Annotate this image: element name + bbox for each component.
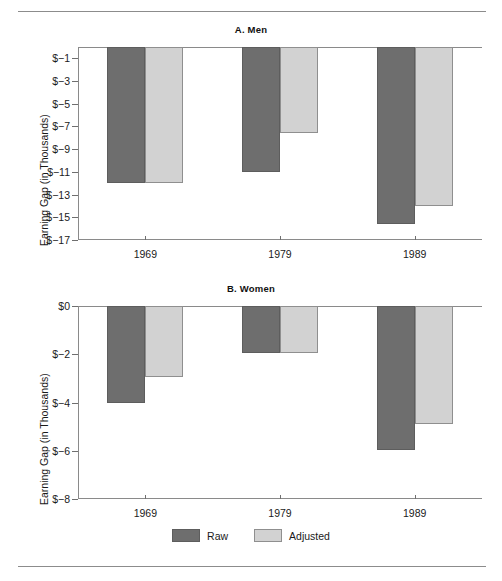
x-axis-tick-mark	[280, 495, 281, 499]
x-axis-tick-mark	[415, 495, 416, 499]
y-axis-tick-mark	[72, 354, 78, 355]
bar-women-1989-raw	[377, 306, 415, 450]
bar-women-1969-raw	[107, 306, 145, 403]
panel-men-plot-area: $−1$−3$−5$−7$−9$−11$−13$−15$−17196919791…	[78, 47, 482, 240]
x-axis-tick-mark	[280, 236, 281, 240]
bar-women-1979-adjusted	[280, 306, 318, 353]
y-axis-tick-label: $−17	[46, 234, 70, 246]
y-axis-tick-label: $−9	[52, 143, 70, 155]
bar-women-1979-raw	[242, 306, 280, 353]
legend-swatch-raw	[172, 529, 200, 542]
x-axis-tick-mark	[145, 495, 146, 499]
y-axis-tick-mark	[72, 172, 78, 173]
x-axis-tick-label: 1979	[268, 248, 291, 260]
legend-item-raw[interactable]: Raw	[172, 529, 228, 542]
y-axis-tick-label: $−15	[46, 211, 70, 223]
y-axis-tick-mark	[72, 306, 78, 307]
y-axis-tick-mark	[72, 81, 78, 82]
bar-men-1969-adjusted	[145, 47, 183, 183]
panel-men: A. Men Earning Gap (in Thousands) $−1$−3…	[0, 24, 502, 274]
y-axis-tick-mark	[72, 195, 78, 196]
x-axis-tick-label: 1989	[403, 507, 426, 519]
panel-women: B. Women Earning Gap (in Thousands) $0$−…	[0, 283, 502, 533]
x-axis-tick-label: 1969	[134, 248, 157, 260]
legend-item-adjusted[interactable]: Adjusted	[254, 529, 330, 542]
y-axis-tick-mark	[72, 403, 78, 404]
chart-legend: RawAdjusted	[0, 529, 502, 542]
y-axis-tick-label: $−4	[52, 397, 70, 409]
bar-women-1989-adjusted	[415, 306, 453, 424]
panel-men-y-axis	[78, 47, 79, 240]
y-axis-tick-label: $−8	[52, 493, 70, 505]
figure-canvas: A. Men Earning Gap (in Thousands) $−1$−3…	[0, 0, 502, 581]
panel-women-plot-area: $0$−2$−4$−6$−8196919791989	[78, 306, 482, 499]
y-axis-tick-label: $−13	[46, 189, 70, 201]
panel-men-y-axis-label: Earning Gap (in Thousands)	[38, 114, 50, 246]
y-axis-tick-mark	[72, 499, 78, 500]
top-divider-rule	[18, 11, 486, 12]
x-axis-tick-mark	[415, 236, 416, 240]
panel-women-title: B. Women	[0, 283, 502, 294]
bar-men-1979-raw	[242, 47, 280, 172]
legend-label-raw: Raw	[207, 530, 228, 542]
y-axis-tick-label: $−11	[47, 166, 70, 178]
x-axis-tick-mark	[145, 236, 146, 240]
y-axis-tick-label: $−6	[52, 445, 70, 457]
bar-men-1989-adjusted	[415, 47, 453, 206]
bar-men-1979-adjusted	[280, 47, 318, 133]
y-axis-tick-label: $−2	[52, 348, 70, 360]
legend-swatch-adjusted	[254, 529, 282, 542]
y-axis-tick-label: $−1	[52, 52, 70, 64]
y-axis-tick-mark	[72, 126, 78, 127]
y-axis-tick-mark	[72, 217, 78, 218]
panel-women-y-axis	[78, 306, 79, 499]
y-axis-tick-mark	[72, 149, 78, 150]
y-axis-tick-mark	[72, 451, 78, 452]
x-axis-tick-label: 1969	[134, 507, 157, 519]
panel-men-title: A. Men	[0, 24, 502, 35]
y-axis-tick-label: $−7	[52, 120, 70, 132]
y-axis-tick-mark	[72, 58, 78, 59]
bar-women-1969-adjusted	[145, 306, 183, 377]
y-axis-tick-mark	[72, 240, 78, 241]
bottom-divider-rule	[18, 566, 486, 567]
y-axis-tick-label: $−5	[52, 98, 70, 110]
panel-women-y-axis-label: Earning Gap (in Thousands)	[38, 373, 50, 505]
x-axis-tick-label: 1989	[403, 248, 426, 260]
legend-label-adjusted: Adjusted	[289, 530, 330, 542]
bar-men-1989-raw	[377, 47, 415, 224]
bar-men-1969-raw	[107, 47, 145, 183]
y-axis-tick-label: $0	[58, 300, 70, 312]
y-axis-tick-mark	[72, 104, 78, 105]
y-axis-tick-label: $−3	[52, 75, 70, 87]
x-axis-tick-label: 1979	[268, 507, 291, 519]
